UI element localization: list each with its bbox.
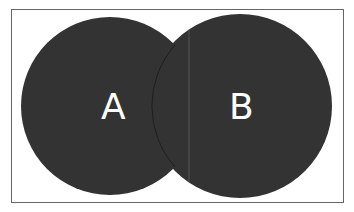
set-b-label: B <box>229 89 254 125</box>
venn-diagram <box>0 0 354 212</box>
set-a-label: A <box>101 89 126 125</box>
